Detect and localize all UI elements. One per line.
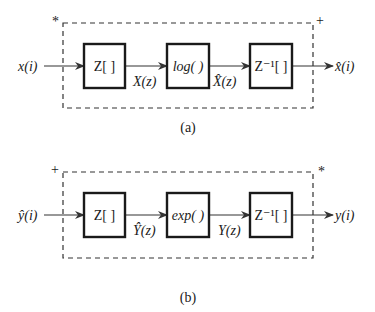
input-label-a: x(i) xyxy=(17,59,38,75)
edge-label-a-1: X(z) xyxy=(132,74,157,90)
block-label-inverse-z: Z⁻¹[ ] xyxy=(255,208,288,223)
corner-mark-right-a: + xyxy=(316,13,324,28)
block-label-z: Z[ ] xyxy=(94,208,115,223)
homomorphic-system-diagrams: * + Z[ ] log( ) Z⁻¹[ ] x(i) x̂(i) X(z) X… xyxy=(0,0,375,312)
input-label-b: ŷ(i) xyxy=(16,208,38,224)
diagram-b: + * Z[ ] exp( ) Z⁻¹[ ] ŷ(i) y(i) Ŷ(z) Y(… xyxy=(16,162,355,306)
edge-label-b-1: Ŷ(z) xyxy=(133,222,156,239)
corner-mark-right-b: * xyxy=(318,164,325,179)
caption-b: (b) xyxy=(180,290,197,306)
block-label-z: Z[ ] xyxy=(94,59,115,74)
corner-mark-left-a: * xyxy=(52,14,59,29)
output-label-a: x̂(i) xyxy=(334,59,355,75)
caption-a: (a) xyxy=(180,120,196,136)
edge-label-a-2: X̂(z) xyxy=(212,74,237,90)
diagram-a: * + Z[ ] log( ) Z⁻¹[ ] x(i) x̂(i) X(z) X… xyxy=(17,13,355,136)
output-label-b: y(i) xyxy=(333,208,355,224)
block-label-inverse-z: Z⁻¹[ ] xyxy=(255,59,288,74)
corner-mark-left-b: + xyxy=(51,162,59,177)
block-label-exp: exp( ) xyxy=(172,208,205,224)
edge-label-b-2: Y(z) xyxy=(218,223,241,239)
block-label-log: log( ) xyxy=(173,59,204,75)
